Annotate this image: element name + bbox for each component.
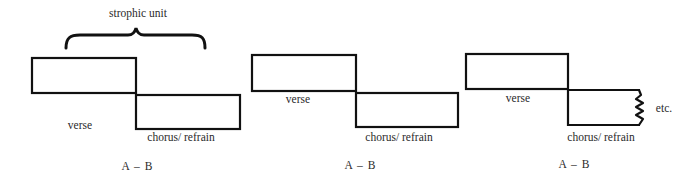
panel3-verse-box bbox=[466, 54, 568, 89]
strophic-unit-brace bbox=[66, 28, 205, 48]
etc-label: etc. bbox=[656, 103, 672, 115]
strophic-unit-label: strophic unit bbox=[109, 8, 167, 20]
panel1-form-label: A – B bbox=[122, 161, 153, 173]
strophic-form-diagram bbox=[0, 0, 698, 183]
panel2-chorus-label: chorus/ refrain bbox=[365, 132, 432, 144]
panel2-verse-box bbox=[252, 55, 356, 91]
panel1-chorus-box bbox=[136, 95, 240, 129]
panel3-verse-label: verse bbox=[506, 93, 530, 105]
panel3-chorus-open-box bbox=[568, 90, 640, 125]
panel2-chorus-box bbox=[356, 93, 458, 127]
panel1-verse-label: verse bbox=[68, 120, 92, 132]
panel3-form-label: A – B bbox=[559, 159, 590, 171]
panel3-chorus-label: chorus/ refrain bbox=[567, 132, 634, 144]
panel2-verse-label: verse bbox=[286, 94, 310, 106]
panel2-form-label: A – B bbox=[345, 160, 376, 172]
panel1-verse-box bbox=[32, 58, 136, 93]
zigzag-continuation-icon bbox=[636, 90, 643, 125]
panel1-chorus-label: chorus/ refrain bbox=[147, 132, 214, 144]
